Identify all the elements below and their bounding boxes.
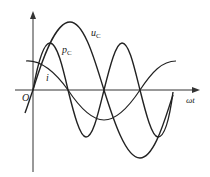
x-axis-label: ωt bbox=[186, 95, 195, 105]
waveform-diagram: O ωt uC pC i bbox=[0, 0, 210, 177]
y-axis-arrow-icon bbox=[30, 11, 36, 19]
origin-label: O bbox=[22, 92, 29, 103]
p-c-label: pC bbox=[61, 44, 72, 57]
i-label: i bbox=[46, 72, 49, 83]
u-c-label: uC bbox=[91, 27, 101, 40]
x-axis-arrow-icon bbox=[192, 87, 200, 93]
